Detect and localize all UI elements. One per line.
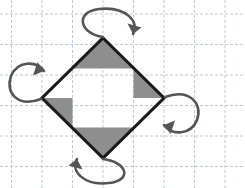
figure-background [0,0,245,188]
rotation-diagram-figure [0,0,245,188]
diagram-canvas [0,0,245,188]
